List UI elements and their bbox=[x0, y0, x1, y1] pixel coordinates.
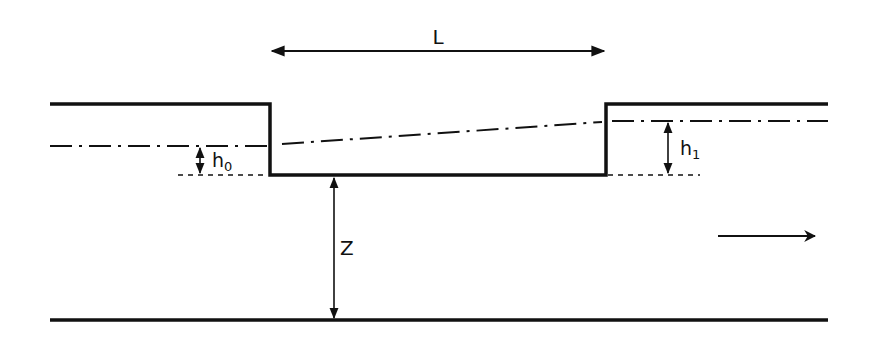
water-surface-sloped bbox=[282, 122, 602, 144]
channel-diagram: L h0 h1 Z bbox=[0, 0, 870, 346]
z-label: Z bbox=[340, 236, 354, 260]
length-label: L bbox=[432, 25, 444, 49]
length-dimension: L bbox=[272, 25, 604, 51]
h1-label: h1 bbox=[680, 137, 700, 162]
channel-outline bbox=[50, 104, 828, 175]
z-dimension: Z bbox=[334, 178, 354, 318]
water-surface bbox=[50, 121, 828, 146]
h0-label: h0 bbox=[212, 149, 232, 174]
h1-dimension: h1 bbox=[668, 123, 700, 173]
h0-dimension: h0 bbox=[200, 148, 232, 174]
channel-profile bbox=[50, 104, 828, 320]
